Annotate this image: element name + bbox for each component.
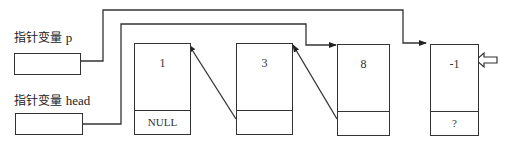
node-data: -1 [431,45,478,72]
pointer-head-label-cn: 指针变量 [14,94,62,108]
list-node-1: 1 NULL [134,43,191,135]
node-data: 8 [338,45,389,72]
node-next [237,110,292,134]
pointer-p-label-var: p [66,30,73,45]
pointer-p-box [14,53,81,75]
node-next: ? [431,111,478,135]
node-data: 3 [237,44,292,71]
list-node-3: 3 [236,43,293,135]
node-data: 1 [135,44,190,71]
link-3-to-1 [189,45,236,119]
pointer-head-line [82,24,336,124]
node-next: NULL [135,110,190,134]
node-next [338,111,389,135]
pointer-head-label: 指针变量 head [14,91,90,109]
pointer-p-label-cn: 指针变量 [14,31,62,45]
list-node-new: -1 ? [430,44,479,136]
pointer-head-box [15,113,83,135]
link-8-to-3 [293,45,337,119]
pointer-p-label: 指针变量 p [14,28,72,46]
hollow-arrow-icon [476,53,497,67]
pointer-head-label-var: head [66,93,91,108]
list-node-8: 8 [337,44,390,136]
